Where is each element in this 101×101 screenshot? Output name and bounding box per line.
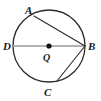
center-dot-icon (46, 43, 51, 48)
geometry-figure: A D B C Q (0, 0, 101, 101)
point-label-d: D (3, 41, 11, 52)
center-label-q: Q (43, 52, 50, 63)
point-label-b: B (88, 41, 95, 52)
chord-line-ab (34, 16, 85, 46)
point-label-a: A (25, 5, 32, 16)
point-label-c: C (44, 87, 51, 98)
